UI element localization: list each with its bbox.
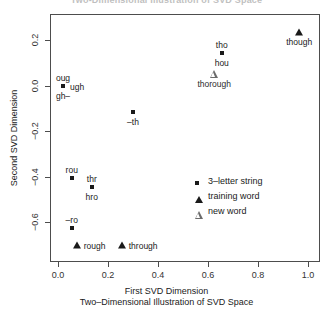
- data-point-open-triangle: [210, 70, 218, 78]
- data-point-label: oug: [56, 73, 70, 83]
- data-point-label: ugh: [70, 82, 84, 92]
- data-point-filled-triangle: [118, 241, 126, 248]
- data-point-label: tho: [216, 40, 228, 50]
- data-point-filled-square: [70, 226, 74, 230]
- x-axis-tick-label: 0.6: [202, 270, 215, 280]
- data-point-filled-square: [70, 176, 74, 180]
- x-axis-tick: [158, 262, 159, 267]
- data-point-filled-square: [220, 51, 224, 55]
- legend-item-label: new word: [208, 206, 247, 216]
- data-point-label: through: [129, 241, 158, 251]
- legend-marker-filled-square: [195, 181, 199, 185]
- legend-item-label: training word: [208, 191, 260, 201]
- data-point-filled-triangle: [295, 29, 303, 36]
- x-axis-tick-label: 0.8: [252, 270, 265, 280]
- data-point-label: –th: [127, 117, 139, 127]
- data-point-label: –ro: [66, 215, 78, 225]
- y-axis-tick-label: −0.4: [30, 168, 40, 186]
- figure-subtitle: Two–Dimensional Illustration of SVD Spac…: [0, 297, 333, 307]
- x-axis-tick-label: 0.2: [102, 270, 115, 280]
- data-point-filled-triangle: [73, 241, 81, 248]
- data-point-label: rou: [66, 165, 78, 175]
- x-axis-tick-label: 0.4: [152, 270, 165, 280]
- y-axis-tick: [45, 222, 50, 223]
- x-axis-tick-label: 0.0: [52, 270, 65, 280]
- y-axis-tick-label: −0.2: [30, 122, 40, 140]
- plot-area: [50, 14, 320, 262]
- y-axis-tick: [45, 131, 50, 132]
- data-point-label: hou: [215, 58, 229, 68]
- data-point-label: thr: [87, 174, 97, 184]
- data-point-filled-square: [131, 110, 135, 114]
- data-point-label: though: [286, 37, 312, 47]
- data-point-filled-square: [61, 84, 65, 88]
- y-axis-tick-label: 0.2: [30, 34, 40, 47]
- x-axis-title: First SVD Dimension: [0, 286, 333, 296]
- y-axis-tick: [45, 40, 50, 41]
- data-point-label: gh–: [56, 91, 70, 101]
- data-point-label: hro: [86, 192, 98, 202]
- data-point-label: rough: [84, 241, 106, 251]
- clipped-figure-title: Two-Dimensional Illustration of SVD Spac…: [0, 0, 333, 5]
- svd-scatter-figure: Two-Dimensional Illustration of SVD Spac…: [0, 0, 333, 316]
- legend-marker-open-triangle: [195, 211, 203, 219]
- legend-marker-filled-triangle: [195, 196, 203, 203]
- data-point-filled-square: [90, 185, 94, 189]
- x-axis-tick: [108, 262, 109, 267]
- x-axis-tick-label: 1.0: [302, 270, 315, 280]
- x-axis-tick: [58, 262, 59, 267]
- y-axis-tick: [45, 177, 50, 178]
- x-axis-tick: [308, 262, 309, 267]
- data-point-label: thorough: [197, 79, 231, 89]
- legend-item-label: 3–letter string: [208, 176, 263, 186]
- y-axis-title: Second SVD Dimension: [9, 90, 19, 187]
- y-axis-tick-label: 0.0: [30, 79, 40, 92]
- y-axis-tick-label: −0.6: [30, 213, 40, 231]
- x-axis-tick: [208, 262, 209, 267]
- y-axis-tick: [45, 86, 50, 87]
- x-axis-tick: [258, 262, 259, 267]
